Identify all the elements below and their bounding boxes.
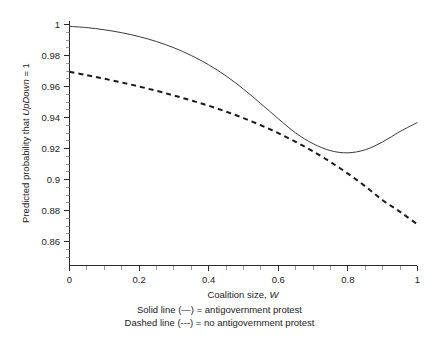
- y-axis-title: Predicted probability that UpDown = 1: [20, 63, 31, 223]
- x-tick-label: 1: [415, 274, 420, 285]
- y-tick-label: 0.86: [42, 236, 61, 247]
- x-tick-label: 0: [67, 274, 72, 285]
- x-axis-title-variable: W: [270, 289, 280, 300]
- y-axis-title-variable: UpDown: [20, 79, 31, 115]
- y-axis-title-plain-1: Predicted probability that: [20, 116, 31, 223]
- chart-legend: Solid line (—) = antigovernment protest …: [0, 303, 439, 329]
- x-tick-label: 0.6: [272, 274, 285, 285]
- x-tick-label: 0.2: [132, 274, 145, 285]
- x-tick-label: 0.8: [341, 274, 354, 285]
- x-axis-title-plain: Coalition size,: [207, 289, 266, 300]
- y-tick-label: 0.98: [42, 50, 61, 61]
- chart-figure: 1 0.98 0.96 0.94 0.92 0.9 0.88 0.86: [0, 0, 439, 351]
- y-tick-label: 0.88: [42, 205, 61, 216]
- y-tick-label: 0.92: [42, 143, 61, 154]
- y-tick-label: 0.94: [42, 112, 61, 123]
- y-tick-label: 0.96: [42, 81, 61, 92]
- x-axis-title: Coalition size,W: [207, 289, 279, 300]
- x-tick-label: 0.4: [202, 274, 215, 285]
- line-chart-plot: 1 0.98 0.96 0.94 0.92 0.9 0.88 0.86: [0, 0, 439, 351]
- y-axis-title-plain-2: = 1: [20, 63, 31, 79]
- y-tick-label: 0.9: [47, 174, 60, 185]
- legend-entry-solid: Solid line (—) = antigovernment protest: [0, 303, 439, 316]
- legend-entry-dashed: Dashed line (---) = no antigovernment pr…: [0, 316, 439, 329]
- y-tick-label: 1: [55, 19, 60, 30]
